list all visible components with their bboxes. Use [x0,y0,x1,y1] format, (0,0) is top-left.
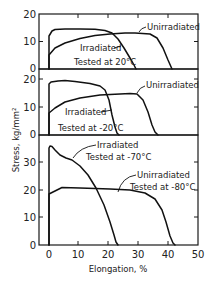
curve-bot-unirradiated [49,188,175,246]
xtick-50: 50 [192,249,205,260]
ytick-top-20: 20 [23,9,36,20]
label-bot-irradiated-tested: Tested at -70°C [85,152,151,162]
ytick-bot-10: 10 [23,212,36,223]
label-bot-unirradiated: Unirradiated [137,170,190,180]
x-axis: 0 10 20 30 40 50 Elongation, % [46,249,205,274]
label-mid-unirradiated: Unirradiated [146,80,199,90]
label-top-tested: Tested at 20°C [73,57,136,67]
ytick-bot-0: 0 [30,240,36,251]
ytick-mid-0: 0 [30,129,36,140]
panel-bottom: 30 20 10 0 Irradiated Tested at -70°C Un… [23,135,198,251]
ytick-top-0: 0 [30,63,36,74]
arrow-top-unirradiated [139,27,146,32]
panel-top: 20 10 0 Unirradiated Irradiated Tested a… [23,9,200,74]
xtick-30: 30 [132,249,145,260]
xtick-10: 10 [72,249,85,260]
y-axis-label: Stress, kg/mm² [11,108,21,173]
ytick-mid-20: 20 [23,74,36,85]
label-mid-tested: Tested at -20°C [57,123,123,133]
x-axis-label: Elongation, % [89,264,148,274]
ytick-bot-20: 20 [23,185,36,196]
label-bot-irradiated: Irradiated [97,140,138,150]
stress-elongation-chart: 20 10 0 Unirradiated Irradiated Tested a… [0,0,214,281]
panel-middle: 20 10 0 Unirradiated Irradiated Tested a… [23,69,199,140]
label-bot-unirradiated-tested: Tested at -80°C [129,182,195,192]
ytick-top-10: 10 [23,36,36,47]
xtick-20: 20 [102,249,115,260]
arrow-mid-unirradiated [137,86,145,93]
xtick-40: 40 [162,249,175,260]
label-top-unirradiated: Unirradiated [147,22,200,32]
ytick-bot-30: 30 [23,157,36,168]
xtick-0: 0 [46,249,52,260]
label-mid-irradiated: Irradiated [65,107,106,117]
ytick-mid-10: 10 [23,102,36,113]
